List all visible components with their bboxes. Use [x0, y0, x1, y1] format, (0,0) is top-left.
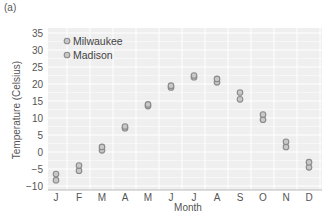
x-axis-title: Month — [174, 202, 202, 213]
data-point-madison — [145, 102, 151, 108]
x-tick-label: A — [122, 192, 129, 203]
data-point-madison — [122, 124, 128, 130]
x-tick-label: F — [76, 192, 82, 203]
y-tick-label: 10 — [32, 113, 44, 124]
data-point-madison — [260, 112, 266, 118]
data-point-madison — [191, 73, 197, 79]
data-point-madison — [53, 171, 59, 177]
legend-label: Madison — [73, 49, 113, 61]
data-point-madison — [237, 90, 243, 96]
y-tick-label: 25 — [32, 62, 44, 73]
data-point-milwaukee — [237, 97, 243, 103]
x-tick-label: M — [144, 192, 152, 203]
y-axis-ticks: −10−505101520253035 — [26, 28, 43, 192]
x-tick-label: J — [169, 192, 174, 203]
x-tick-label: N — [282, 192, 289, 203]
y-axis-title: Temperature (Celsius) — [11, 61, 22, 159]
x-tick-label: A — [214, 192, 221, 203]
y-tick-label: 35 — [32, 28, 44, 39]
y-tick-label: 30 — [32, 45, 44, 56]
x-tick-label: S — [237, 192, 244, 203]
y-tick-label: 0 — [37, 147, 43, 158]
data-point-madison — [76, 163, 82, 169]
data-point-madison — [214, 76, 220, 82]
legend-label: Milwaukee — [73, 35, 123, 47]
y-tick-label: 15 — [32, 96, 44, 107]
legend-marker-icon — [64, 38, 70, 44]
y-tick-label: 5 — [37, 130, 43, 141]
data-point-milwaukee — [53, 177, 59, 183]
x-tick-label: O — [259, 192, 267, 203]
data-point-madison — [283, 139, 289, 145]
x-tick-label: D — [305, 192, 312, 203]
data-point-madison — [306, 159, 312, 165]
data-point-madison — [168, 83, 174, 89]
temperature-scatter-chart: −10−505101520253035 JFMAMJJASOND Milwauk… — [0, 0, 328, 224]
x-tick-label: M — [98, 192, 106, 203]
legend-marker-icon — [64, 52, 70, 58]
data-point-madison — [99, 144, 105, 150]
y-tick-label: −10 — [26, 181, 43, 192]
y-tick-label: −5 — [32, 164, 44, 175]
y-tick-label: 20 — [32, 79, 44, 90]
x-tick-label: J — [54, 192, 59, 203]
